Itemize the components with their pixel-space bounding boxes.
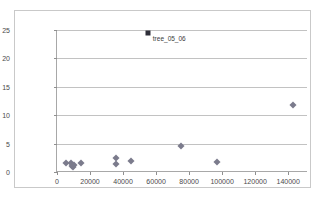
y-tick-mark: [54, 87, 57, 88]
x-tick-mark: [156, 172, 157, 175]
data-point[interactable]: [145, 30, 150, 35]
chart-frame: 0510152025020000400006000080000100000120…: [14, 10, 311, 188]
y-tick-label: 0: [0, 169, 10, 176]
x-tick-mark: [90, 172, 91, 175]
y-tick-label: 15: [0, 83, 10, 90]
data-point[interactable]: [177, 143, 184, 150]
x-tick-mark: [189, 172, 190, 175]
x-tick-label: 140000: [266, 178, 310, 185]
y-gridline: [57, 30, 307, 31]
y-tick-mark: [54, 58, 57, 59]
data-point[interactable]: [77, 159, 84, 166]
y-tick-label: 5: [0, 140, 10, 147]
x-tick-mark: [57, 172, 58, 175]
data-point[interactable]: [290, 101, 297, 108]
y-tick-mark: [54, 115, 57, 116]
y-tick-label: 10: [0, 112, 10, 119]
plot-area: 0510152025020000400006000080000100000120…: [56, 30, 307, 172]
y-tick-label: 25: [0, 27, 10, 34]
data-point[interactable]: [113, 154, 120, 161]
y-tick-mark: [54, 144, 57, 145]
y-gridline: [57, 58, 307, 59]
data-point-label: tree_05_06: [153, 35, 186, 42]
y-tick-label: 20: [0, 55, 10, 62]
x-tick-mark: [288, 172, 289, 175]
x-tick-mark: [255, 172, 256, 175]
x-tick-mark: [222, 172, 223, 175]
data-point[interactable]: [128, 157, 135, 164]
data-point[interactable]: [214, 158, 221, 165]
y-gridline: [57, 87, 307, 88]
y-gridline: [57, 115, 307, 116]
y-tick-mark: [54, 30, 57, 31]
x-tick-mark: [123, 172, 124, 175]
